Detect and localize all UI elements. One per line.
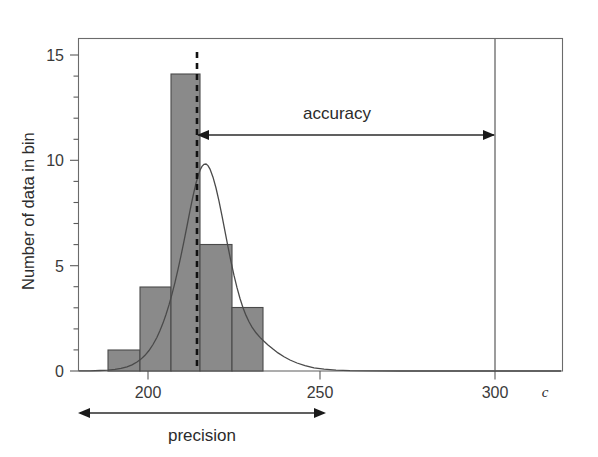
bar-bin-3 — [171, 74, 200, 371]
y-tick-label-15: 15 — [46, 47, 64, 64]
y-axis-ticks — [70, 55, 79, 371]
x-tick-label-200: 200 — [135, 384, 162, 401]
y-tick-label-5: 5 — [55, 258, 64, 275]
precision-label: precision — [168, 426, 236, 445]
x-axis-variable-label: c — [542, 384, 549, 400]
y-tick-label-0: 0 — [55, 363, 64, 380]
bar-bin-4 — [200, 245, 232, 372]
y-tick-label-10: 10 — [46, 152, 64, 169]
accuracy-label: accuracy — [303, 104, 372, 123]
x-tick-label-300: 300 — [482, 384, 509, 401]
precision-arrow — [78, 408, 326, 418]
x-tick-label-250: 250 — [307, 384, 334, 401]
bar-bin-5 — [232, 308, 263, 372]
histogram-figure: 0 5 10 15 Number of data in bin 200 250 … — [0, 0, 598, 457]
bar-bin-2 — [140, 287, 171, 371]
x-axis-ticks — [148, 371, 495, 380]
y-axis-title: Number of data in bin — [19, 132, 37, 290]
